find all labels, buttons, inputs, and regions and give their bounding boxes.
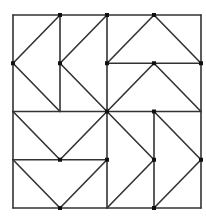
bottom-left-v-1 [60,112,107,160]
vertex-dot [105,13,109,17]
vertex-dot [105,158,109,162]
top-right-triangle-2 [154,63,201,111]
bottom-right-chevron-2 [154,160,201,208]
vertex-dot [152,61,156,65]
diagram-canvas [0,0,206,220]
bottom-right-chevron-2 [154,112,201,160]
top-left-chevron-2 [60,15,107,63]
bottom-right-chevron-1 [107,160,154,208]
bottom-right-chevron-1 [107,112,154,160]
bottom-left-v-2 [13,160,60,208]
vertex-dot [152,13,156,17]
top-right-triangle-1 [154,15,201,63]
bottom-left-v-2 [60,160,107,208]
vertex-dot [152,110,156,114]
quilt-pattern-diagram [0,0,206,220]
vertex-dot [58,13,62,17]
top-right-triangle-1 [107,15,154,63]
top-left-chevron-1 [13,63,60,111]
vertex-dot [58,158,62,162]
vertex-dot [152,206,156,210]
vertex-dot [199,61,203,65]
top-left-chevron-2 [60,63,107,111]
top-right-triangle-2 [107,63,154,111]
vertex-dot [199,158,203,162]
bottom-left-v-1 [13,112,60,160]
vertex-dot [58,61,62,65]
vertex-dot [58,206,62,210]
vertex-dot [11,61,15,65]
vertex-dot [105,61,109,65]
vertex-dot [152,158,156,162]
top-left-chevron-1 [13,15,60,63]
vertex-dot [105,110,109,114]
